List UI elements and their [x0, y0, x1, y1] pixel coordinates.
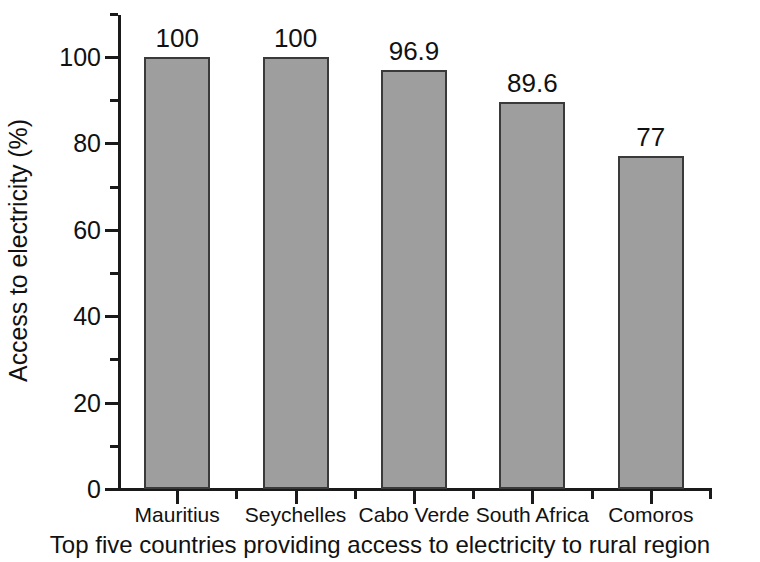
- y-axis-title: Access to electricity (%): [0, 0, 36, 500]
- y-axis-title-text: Access to electricity (%): [4, 119, 33, 382]
- bar-series: 10010096.989.677: [118, 15, 712, 489]
- bar-value-label: 100: [274, 23, 317, 54]
- x-axis-tick-minor: [235, 491, 238, 499]
- x-axis-tick-minor: [354, 491, 357, 499]
- y-axis-tick-major: [105, 229, 118, 232]
- bar[interactable]: [263, 57, 329, 489]
- bar-value-label: 77: [636, 122, 665, 153]
- y-axis-tick-major: [105, 315, 118, 318]
- x-axis-tick-minor: [472, 491, 475, 499]
- x-axis-category-label: Mauritius: [135, 503, 220, 527]
- y-axis-tick-major: [105, 142, 118, 145]
- x-axis-category-label: Seychelles: [245, 503, 347, 527]
- x-axis-category-label: Comoros: [608, 503, 693, 527]
- y-axis-tick-minor: [110, 445, 118, 448]
- bar[interactable]: [499, 102, 565, 489]
- y-axis-tick-label: 100: [59, 43, 101, 72]
- bar-value-label: 89.6: [507, 68, 558, 99]
- y-axis-tick-minor: [110, 13, 118, 16]
- x-axis-category-label: Cabo Verde: [359, 503, 470, 527]
- x-axis-category-labels: MauritiusSeychellesCabo VerdeSouth Afric…: [0, 503, 760, 533]
- x-axis-tick-minor: [591, 491, 594, 499]
- y-axis-tick-major: [105, 56, 118, 59]
- bar[interactable]: [144, 57, 210, 489]
- y-axis-tick-label: 40: [73, 302, 101, 331]
- y-axis-tick-minor: [110, 358, 118, 361]
- bar-value-label: 96.9: [389, 36, 440, 67]
- y-axis-tick-label: 20: [73, 388, 101, 417]
- x-axis-category-label: South Africa: [476, 503, 589, 527]
- y-axis-tick-minor: [110, 186, 118, 189]
- bar-chart-figure: Access to electricity (%) 020406080100 1…: [0, 0, 760, 562]
- y-axis-tick-label: 60: [73, 215, 101, 244]
- bar-value-label: 100: [155, 23, 198, 54]
- bar[interactable]: [381, 70, 447, 489]
- bar[interactable]: [618, 156, 684, 489]
- y-axis-tick-major: [105, 402, 118, 405]
- y-axis-tick-minor: [110, 272, 118, 275]
- y-axis-tick-label: 80: [73, 129, 101, 158]
- chart-caption: Top five countries providing access to e…: [0, 531, 760, 559]
- y-axis-tick-minor: [110, 99, 118, 102]
